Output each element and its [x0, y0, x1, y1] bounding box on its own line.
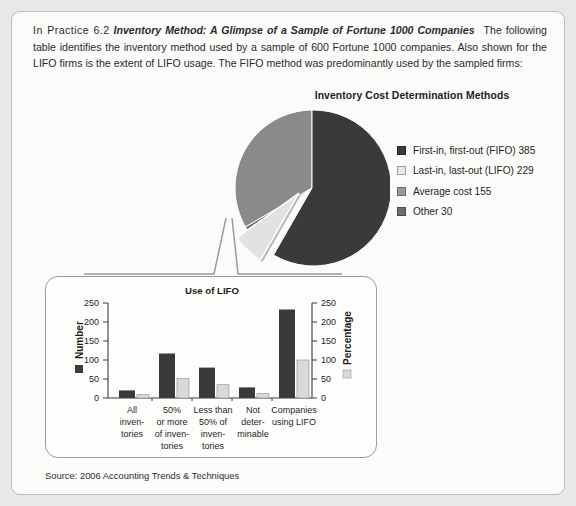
legend-label-lifo: Last-in, last-out (LIFO) 229: [413, 165, 534, 176]
svg-text:0: 0: [321, 393, 326, 403]
x-label: 50%: [163, 405, 181, 415]
bar-group: [239, 387, 272, 401]
bar-group: [279, 310, 309, 399]
bar-number: [199, 368, 215, 398]
textbook-figure-card: In Practice 6.2 Inventory Method: A Glim…: [11, 11, 565, 495]
svg-text:250: 250: [321, 298, 336, 308]
practice-label: In Practice 6.2: [33, 24, 110, 36]
legend-swatch-average-cost: [397, 187, 406, 196]
bar-number: [279, 310, 295, 399]
x-label: inven-: [120, 417, 145, 427]
x-label: tories: [121, 429, 144, 439]
svg-text:200: 200: [84, 317, 99, 327]
right-axis-ticks: 0 50 100 150 200 250: [312, 298, 336, 403]
svg-text:0: 0: [94, 393, 99, 403]
x-label: or more: [156, 417, 187, 427]
bar-group: [119, 390, 152, 401]
svg-text:200: 200: [321, 317, 336, 327]
x-label: Not: [246, 405, 261, 415]
legend-item: Last-in, last-out (LIFO) 229: [397, 161, 576, 182]
bar-percentage: [257, 393, 269, 398]
bar-chart-panel: Use of LIFO 0 50 100 150: [45, 276, 377, 458]
svg-text:50: 50: [321, 374, 331, 384]
x-label: Companies: [271, 405, 317, 415]
x-axis-labels: All inven- tories 50% or more of inven- …: [120, 405, 318, 451]
x-label: inven-: [201, 429, 226, 439]
legend-item: First-in, first-out (FIFO) 385: [397, 140, 576, 161]
x-label: deter-: [241, 417, 265, 427]
pie-legend: First-in, first-out (FIFO) 385 Last-in, …: [397, 140, 576, 222]
x-label: All: [127, 405, 137, 415]
x-label: tories: [161, 441, 184, 451]
bar-percentage: [137, 395, 149, 398]
legend-swatch-other: [397, 207, 406, 216]
left-axis-label: Number: [74, 321, 85, 359]
bar-number: [239, 387, 255, 398]
svg-text:150: 150: [321, 336, 336, 346]
svg-text:250: 250: [84, 298, 99, 308]
legend-label-other: Other 30: [413, 206, 452, 217]
figure-page: In Practice 6.2 Inventory Method: A Glim…: [0, 0, 576, 506]
legend-label-average-cost: Average cost 155: [413, 186, 491, 197]
legend-item: Other 30: [397, 202, 576, 223]
x-label: using LIFO: [272, 417, 316, 427]
bar-chart-title: Use of LIFO: [46, 285, 378, 296]
legend-item: Average cost 155: [397, 181, 576, 202]
bar-chart: 0 50 100 150 200 250 0 50: [46, 297, 378, 455]
x-label: of inven-: [155, 429, 190, 439]
bar-number: [159, 354, 175, 399]
bar-group: [159, 354, 192, 402]
intro-paragraph: In Practice 6.2 Inventory Method: A Glim…: [33, 22, 547, 72]
bar-percentage: [177, 379, 189, 398]
pie-chart-title: Inventory Cost Determination Methods: [252, 90, 572, 101]
practice-title: Inventory Method: A Glimpse of a Sample …: [114, 24, 475, 36]
bar-number: [119, 390, 135, 398]
left-axis-label-group: Number: [74, 321, 85, 373]
svg-text:150: 150: [84, 336, 99, 346]
left-axis-ticks: 0 50 100 150 200 250: [84, 298, 108, 403]
svg-text:50: 50: [89, 374, 99, 384]
x-label: tories: [202, 441, 225, 451]
legend-label-fifo: First-in, first-out (FIFO) 385: [413, 145, 535, 156]
bar-percentage: [217, 385, 229, 398]
legend-swatch-fifo: [397, 146, 406, 155]
svg-text:100: 100: [84, 355, 99, 365]
x-label: 50% of: [199, 417, 228, 427]
right-axis-label-group: Percentage: [342, 311, 353, 378]
legend-swatch-lifo: [397, 166, 406, 175]
x-label: Less than: [193, 405, 232, 415]
bar-group: [199, 368, 232, 401]
x-label: minable: [237, 429, 269, 439]
source-note: Source: 2006 Accounting Trends & Techniq…: [45, 470, 239, 481]
bar-percentage: [297, 360, 309, 398]
svg-text:100: 100: [321, 355, 336, 365]
right-axis-label: Percentage: [342, 311, 353, 365]
